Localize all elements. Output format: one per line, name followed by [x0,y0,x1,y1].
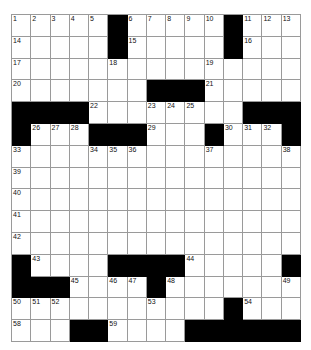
crossword-cell[interactable] [108,80,127,102]
crossword-cell[interactable] [31,168,50,190]
crossword-cell[interactable]: 6 [128,15,147,37]
crossword-cell[interactable]: 1 [12,15,31,37]
crossword-cell[interactable] [89,255,108,277]
crossword-cell[interactable] [89,189,108,211]
crossword-cell[interactable] [51,80,70,102]
crossword-cell[interactable] [166,168,185,190]
crossword-cell[interactable]: 5 [89,15,108,37]
crossword-cell[interactable] [108,189,127,211]
crossword-cell[interactable] [89,298,108,320]
crossword-cell[interactable] [205,102,224,124]
crossword-cell[interactable]: 10 [205,15,224,37]
crossword-cell[interactable] [108,168,127,190]
crossword-cell[interactable]: 48 [166,277,185,299]
crossword-cell[interactable]: 30 [224,124,243,146]
crossword-cell[interactable] [147,146,166,168]
crossword-cell[interactable] [262,59,281,81]
crossword-cell[interactable] [224,168,243,190]
crossword-cell[interactable] [31,59,50,81]
crossword-cell[interactable] [128,298,147,320]
crossword-cell[interactable] [51,211,70,233]
crossword-cell[interactable] [185,37,204,59]
crossword-cell[interactable] [243,146,262,168]
crossword-cell[interactable]: 51 [31,298,50,320]
crossword-cell[interactable]: 45 [70,277,89,299]
crossword-cell[interactable] [243,189,262,211]
crossword-cell[interactable]: 25 [185,102,204,124]
crossword-cell[interactable]: 14 [12,37,31,59]
crossword-cell[interactable] [108,233,127,255]
crossword-cell[interactable]: 19 [205,59,224,81]
crossword-cell[interactable]: 33 [12,146,31,168]
crossword-cell[interactable] [70,233,89,255]
crossword-cell[interactable]: 36 [128,146,147,168]
crossword-cell[interactable]: 40 [12,189,31,211]
crossword-cell[interactable] [128,211,147,233]
crossword-cell[interactable]: 3 [51,15,70,37]
crossword-cell[interactable] [89,80,108,102]
crossword-cell[interactable] [51,59,70,81]
crossword-cell[interactable]: 9 [185,15,204,37]
crossword-grid[interactable]: 1234567891011121314151617181920212223242… [11,14,301,342]
crossword-cell[interactable]: 8 [166,15,185,37]
crossword-cell[interactable]: 24 [166,102,185,124]
crossword-cell[interactable] [70,168,89,190]
crossword-cell[interactable] [89,211,108,233]
crossword-cell[interactable]: 26 [31,124,50,146]
crossword-cell[interactable] [108,298,127,320]
crossword-cell[interactable] [147,320,166,342]
crossword-cell[interactable] [70,211,89,233]
crossword-cell[interactable] [205,277,224,299]
crossword-cell[interactable] [262,233,281,255]
crossword-cell[interactable] [243,211,262,233]
crossword-cell[interactable] [282,168,301,190]
crossword-cell[interactable]: 42 [12,233,31,255]
crossword-cell[interactable] [108,102,127,124]
crossword-cell[interactable] [31,146,50,168]
crossword-cell[interactable] [205,233,224,255]
crossword-cell[interactable] [166,37,185,59]
crossword-cell[interactable]: 4 [70,15,89,37]
crossword-cell[interactable] [31,320,50,342]
crossword-cell[interactable]: 34 [89,146,108,168]
crossword-cell[interactable] [128,189,147,211]
crossword-cell[interactable] [262,189,281,211]
crossword-cell[interactable]: 15 [128,37,147,59]
crossword-cell[interactable] [166,124,185,146]
crossword-cell[interactable] [224,146,243,168]
crossword-cell[interactable] [166,211,185,233]
crossword-cell[interactable]: 46 [108,277,127,299]
crossword-cell[interactable] [205,211,224,233]
crossword-cell[interactable]: 29 [147,124,166,146]
crossword-cell[interactable] [243,255,262,277]
crossword-cell[interactable]: 50 [12,298,31,320]
crossword-cell[interactable] [70,80,89,102]
crossword-cell[interactable] [185,189,204,211]
crossword-cell[interactable] [282,80,301,102]
crossword-cell[interactable]: 22 [89,102,108,124]
crossword-cell[interactable] [282,298,301,320]
crossword-cell[interactable] [166,320,185,342]
crossword-cell[interactable] [70,189,89,211]
crossword-cell[interactable] [262,37,281,59]
crossword-cell[interactable] [224,211,243,233]
crossword-cell[interactable] [262,277,281,299]
crossword-cell[interactable] [31,211,50,233]
crossword-cell[interactable] [166,59,185,81]
crossword-cell[interactable] [51,146,70,168]
crossword-cell[interactable]: 47 [128,277,147,299]
crossword-cell[interactable] [205,189,224,211]
crossword-cell[interactable]: 37 [205,146,224,168]
crossword-cell[interactable] [243,233,262,255]
crossword-cell[interactable] [166,298,185,320]
crossword-cell[interactable] [224,255,243,277]
crossword-cell[interactable] [89,233,108,255]
crossword-cell[interactable] [89,37,108,59]
crossword-cell[interactable] [31,233,50,255]
crossword-cell[interactable]: 31 [243,124,262,146]
crossword-cell[interactable] [147,189,166,211]
crossword-cell[interactable] [185,211,204,233]
crossword-cell[interactable] [70,298,89,320]
crossword-cell[interactable] [147,233,166,255]
crossword-cell[interactable] [243,277,262,299]
